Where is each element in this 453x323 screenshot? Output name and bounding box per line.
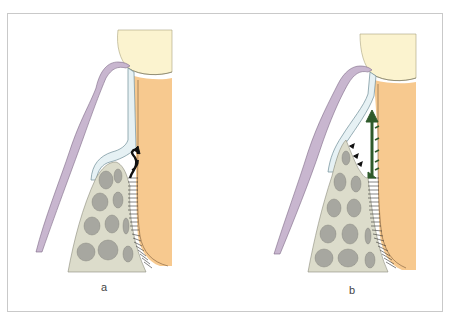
periodontium-diagram-a <box>0 0 226 323</box>
green-regeneration-arrow-icon <box>366 110 379 178</box>
tooth-root <box>374 80 416 270</box>
panel-b: b <box>226 0 452 323</box>
tooth-root <box>134 76 172 266</box>
panel-label-b: b <box>349 284 355 296</box>
panel-a: a <box>0 0 226 323</box>
enamel-crown <box>360 34 416 81</box>
panel-label-a: a <box>101 281 107 293</box>
periodontium-diagram-b <box>226 0 453 323</box>
